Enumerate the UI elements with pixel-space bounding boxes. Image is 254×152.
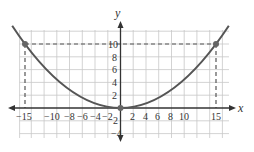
svg-text:−10: −10: [44, 111, 60, 122]
svg-text:15: 15: [211, 111, 221, 122]
point-neg15-10: [22, 41, 28, 47]
svg-text:2: 2: [130, 111, 135, 122]
y-axis-up-arrow-icon: [118, 21, 124, 28]
svg-text:6: 6: [112, 64, 117, 75]
svg-text:−8: −8: [64, 111, 75, 122]
x-tick-labels: −15 −10 −8 −6 −4 −2 2 4 6 8 10 15: [16, 111, 221, 122]
svg-text:−2: −2: [102, 111, 113, 122]
svg-text:2: 2: [112, 90, 117, 101]
svg-text:10: 10: [108, 39, 118, 50]
y-axis-label: y: [114, 6, 121, 20]
svg-text:2: 2: [113, 115, 118, 126]
svg-text:4: 4: [143, 111, 148, 122]
svg-text:−15: −15: [16, 111, 32, 122]
svg-text:−4: −4: [90, 111, 101, 122]
svg-text:8: 8: [168, 111, 173, 122]
svg-text:6: 6: [155, 111, 160, 122]
svg-text:10: 10: [179, 111, 189, 122]
svg-text:−4: −4: [111, 128, 122, 139]
x-axis-left-arrow-icon: [8, 105, 15, 111]
point-15-10: [213, 41, 219, 47]
x-axis-label: x: [237, 101, 244, 115]
y-tick-labels: 10 8 6 4 2 2 −4: [108, 39, 122, 140]
svg-text:−6: −6: [77, 111, 88, 122]
svg-text:8: 8: [112, 52, 117, 63]
svg-text:4: 4: [112, 77, 117, 88]
x-axis-right-arrow-icon: [229, 105, 236, 111]
point-origin: [118, 105, 124, 111]
parabola-graph: y x −15 −10 −8 −6 −4 −2 2 4 6 8 10 15 10…: [0, 0, 254, 152]
